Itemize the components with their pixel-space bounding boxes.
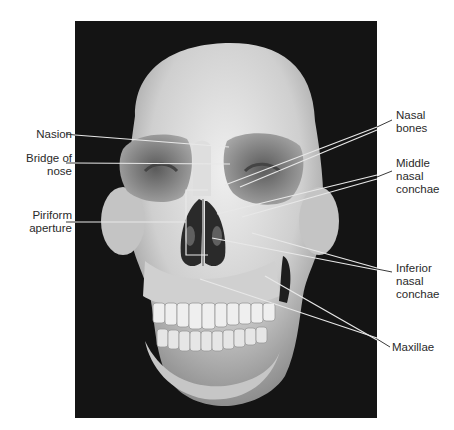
label-text: Piriform xyxy=(10,209,72,222)
leader-inferior-conchae-outer xyxy=(377,269,392,272)
right-zygomatic xyxy=(299,187,339,255)
leader-maxillae-outer xyxy=(377,339,390,347)
skull-illustration xyxy=(75,21,377,418)
label-text: nasal xyxy=(396,170,454,183)
label-bridge-of-nose: Bridge of nose xyxy=(10,152,72,178)
label-piriform-aperture: Piriform aperture xyxy=(10,209,72,235)
label-text: Nasal xyxy=(396,109,454,122)
right-orbit xyxy=(224,133,304,204)
label-maxillae: Maxillae xyxy=(392,341,454,354)
label-text: conchae xyxy=(396,183,454,196)
label-text: Middle xyxy=(396,157,454,170)
left-orbit xyxy=(120,134,192,202)
skull-photo xyxy=(75,21,377,418)
nasal-bridge xyxy=(193,141,211,196)
label-inferior-nasal-conchae: Inferior nasal conchae xyxy=(396,262,454,301)
label-text: nose xyxy=(10,165,72,178)
label-nasal-bones: Nasal bones xyxy=(396,109,454,135)
cranium xyxy=(127,43,323,406)
label-text: bones xyxy=(396,122,454,135)
label-text: Nasion xyxy=(22,128,72,141)
label-middle-nasal-conchae: Middle nasal conchae xyxy=(396,157,454,196)
label-nasion: Nasion xyxy=(22,128,72,141)
label-text: Bridge of xyxy=(10,152,72,165)
leader-middle-conchae-outer xyxy=(377,171,392,177)
leader-nasal-bones-outer xyxy=(377,120,392,127)
label-text: conchae xyxy=(396,288,454,301)
label-text: aperture xyxy=(10,222,72,235)
label-text: nasal xyxy=(396,275,454,288)
label-text: Maxillae xyxy=(392,341,454,354)
label-text: Inferior xyxy=(396,262,454,275)
